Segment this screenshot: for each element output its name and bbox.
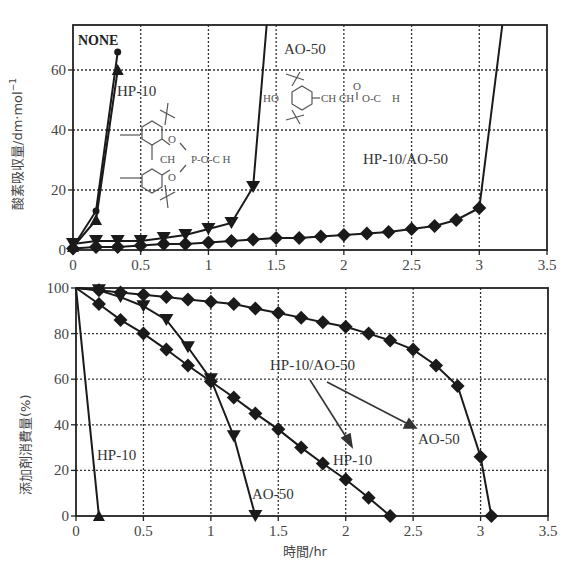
triangle-down-marker bbox=[159, 314, 173, 326]
series-hp-10 bbox=[67, 64, 124, 252]
diamond-marker bbox=[474, 450, 488, 464]
x-tick-label: 1.5 bbox=[269, 523, 288, 539]
diamond-marker bbox=[428, 219, 442, 233]
x-tick-label: 1 bbox=[205, 257, 213, 273]
series-hp-10-ao-50 bbox=[66, 25, 502, 256]
diamond-marker bbox=[227, 390, 241, 404]
x-tick-label: 0.5 bbox=[131, 257, 150, 273]
y-tick-label: 20 bbox=[54, 462, 69, 478]
x-axis-label: 時間/hr bbox=[283, 544, 328, 559]
ao50-ho: HO bbox=[263, 92, 279, 104]
diamond-marker bbox=[248, 406, 262, 420]
x-tick-label: 0 bbox=[72, 523, 80, 539]
diamond-marker bbox=[269, 231, 283, 245]
label-none: NONE bbox=[78, 33, 118, 48]
diamond-marker bbox=[246, 233, 260, 247]
x-tick-label: 3 bbox=[476, 257, 484, 273]
diamond-marker bbox=[337, 228, 351, 242]
chart-figure: 00.511.522.533.5 0204060 O O CH P-O-C H bbox=[0, 0, 571, 571]
y-tick-label: 40 bbox=[51, 122, 66, 138]
bottom-plot: 00.511.522.533.5 020406080100 HP-10 AO-5… bbox=[18, 280, 557, 559]
ao50-carbonyl-o: O bbox=[353, 80, 361, 92]
arrow-head-hp10 bbox=[342, 434, 352, 447]
diamond-marker bbox=[159, 343, 173, 357]
bottom-y-axis-label: 添加剤消費量(%) bbox=[18, 395, 33, 496]
x-tick-label: 1 bbox=[207, 523, 215, 539]
y-tick-label: 80 bbox=[54, 326, 69, 342]
x-tick-label: 0 bbox=[69, 257, 77, 273]
top-x-ticks: 00.511.522.533.5 bbox=[69, 250, 556, 273]
diamond-marker bbox=[316, 315, 330, 329]
diamond-marker bbox=[92, 297, 106, 311]
y-tick-label: 0 bbox=[62, 508, 70, 524]
series-hp-10 bbox=[76, 288, 105, 521]
triangle-down-marker bbox=[246, 181, 260, 193]
diamond-marker bbox=[178, 237, 192, 251]
diamond-marker bbox=[248, 302, 262, 316]
x-tick-label: 3.5 bbox=[538, 257, 557, 273]
y-tick-label: 60 bbox=[54, 371, 69, 387]
diamond-marker bbox=[136, 327, 150, 341]
circle-marker bbox=[114, 49, 121, 56]
diamond-marker bbox=[382, 225, 396, 239]
y-tick-label: 20 bbox=[51, 182, 66, 198]
label-mix-hp10: HP-10 bbox=[333, 452, 372, 468]
y-tick-label: 40 bbox=[54, 417, 69, 433]
hp10-o-upper: O bbox=[168, 133, 176, 145]
top-plot-frame bbox=[73, 25, 547, 250]
diamond-marker bbox=[294, 311, 308, 325]
label-ao50-top: AO-50 bbox=[284, 41, 326, 57]
diamond-marker bbox=[405, 222, 419, 236]
x-tick-label: 3 bbox=[477, 523, 485, 539]
x-tick-label: 0.5 bbox=[134, 523, 153, 539]
hp10-p-group: P-O-C H bbox=[191, 153, 230, 165]
x-tick-label: 3.5 bbox=[539, 523, 558, 539]
diamond-marker bbox=[201, 236, 215, 250]
diamond-marker bbox=[383, 333, 397, 347]
bottom-y-ticks: 020406080100 bbox=[47, 280, 77, 524]
triangle-down-marker bbox=[181, 341, 195, 353]
diamond-marker bbox=[159, 290, 173, 304]
top-series bbox=[66, 25, 502, 256]
x-tick-label: 2 bbox=[342, 523, 350, 539]
hp10-o-lower: O bbox=[168, 171, 176, 183]
diamond-marker bbox=[114, 313, 128, 327]
diamond-marker bbox=[136, 288, 150, 302]
ao50-ester: O-C bbox=[362, 92, 381, 104]
label-hp10-top: HP-10 bbox=[117, 83, 156, 99]
y-tick-label: 100 bbox=[47, 280, 70, 296]
diamond-marker bbox=[204, 295, 218, 309]
diamond-marker bbox=[484, 509, 498, 523]
hp10-ch2: CH bbox=[160, 153, 175, 165]
diamond-marker bbox=[360, 227, 374, 241]
arrow-head-ao50 bbox=[404, 419, 416, 428]
triangle-down-marker bbox=[201, 223, 215, 235]
ao50-chain: CH CH bbox=[321, 92, 354, 104]
triangle-down-marker bbox=[227, 430, 241, 442]
annotation-arrows bbox=[310, 380, 416, 447]
diamond-marker bbox=[449, 213, 463, 227]
x-tick-label: 1.5 bbox=[267, 257, 286, 273]
hp10-structure bbox=[120, 103, 186, 208]
top-grid bbox=[73, 25, 547, 250]
bottom-plot-frame bbox=[76, 288, 548, 516]
x-tick-label: 2 bbox=[340, 257, 348, 273]
diamond-marker bbox=[406, 343, 420, 357]
diamond-marker bbox=[227, 297, 241, 311]
triangle-down-marker bbox=[136, 300, 150, 312]
triangle-up-marker bbox=[90, 214, 102, 225]
diamond-marker bbox=[271, 306, 285, 320]
diamond-marker bbox=[316, 457, 330, 471]
diamond-marker bbox=[472, 201, 486, 215]
diamond-marker bbox=[339, 320, 353, 334]
diamond-marker bbox=[181, 292, 195, 306]
diamond-marker bbox=[292, 231, 306, 245]
diamond-marker bbox=[181, 359, 195, 373]
y-tick-label: 0 bbox=[59, 242, 67, 258]
diamond-marker bbox=[314, 230, 328, 244]
label-mix-bottom: HP-10/AO-50 bbox=[270, 357, 355, 373]
y-tick-label: 60 bbox=[51, 62, 66, 78]
x-tick-label: 2.5 bbox=[404, 523, 423, 539]
label-ao50-bottom: AO-50 bbox=[252, 486, 294, 502]
diamond-marker bbox=[111, 240, 125, 254]
